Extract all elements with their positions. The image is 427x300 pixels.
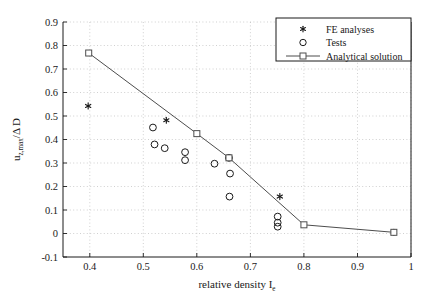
test-circle-marker [150,124,157,131]
legend-label: Tests [326,37,347,48]
y-tick-label: 0 [53,228,58,239]
y-tick-label: 0.8 [45,40,58,51]
y-tick-label: -0.1 [41,252,58,263]
y-tick-label: 0.7 [45,64,58,75]
x-axis-label: relative density Ie [198,278,275,293]
analytical-square-marker [300,53,306,59]
x-tick-label: 0.5 [137,261,150,272]
chart-figure: 0.40.50.60.70.80.91-0.100.10.20.30.40.50… [0,0,427,300]
x-tick-label: 1 [408,261,413,272]
x-tick-label: 0.9 [351,261,364,272]
y-tick-label: 0.5 [45,111,58,122]
y-tick-label: 0.9 [45,17,58,28]
analytical-square-marker [301,222,307,228]
y-tick-label: 0.2 [45,181,58,192]
y-tick-label: 0.1 [45,205,58,216]
test-circle-marker [211,160,218,167]
test-circle-marker [182,157,189,164]
analytical-solution-line [89,53,394,232]
test-circle-marker [151,141,158,148]
analytical-square-marker [194,131,200,137]
y-tick-label: 0.3 [45,158,58,169]
y-axis-label: uz,max/Δ D [10,118,25,161]
analytical-square-marker [226,155,232,161]
test-circle-marker [182,149,189,156]
test-circle-marker [226,193,233,200]
test-circle-marker [161,145,168,152]
x-tick-label: 0.8 [297,261,310,272]
x-tick-label: 0.6 [190,261,203,272]
series-analytical-solution [86,50,397,235]
y-tick-label: 0.6 [45,87,58,98]
analytical-square-marker [391,229,397,235]
series-tests [150,124,282,230]
analytical-square-marker [86,50,92,56]
chart-svg: 0.40.50.60.70.80.91-0.100.10.20.30.40.50… [0,0,427,300]
test-circle-marker [227,170,234,177]
legend-label: FE analyses [326,24,374,35]
test-circle-marker [274,223,281,230]
y-tick-label: 0.4 [45,134,59,145]
x-tick-label: 0.4 [83,261,97,272]
x-tick-label: 0.7 [244,261,257,272]
legend-label: Analytical solution [326,51,402,62]
